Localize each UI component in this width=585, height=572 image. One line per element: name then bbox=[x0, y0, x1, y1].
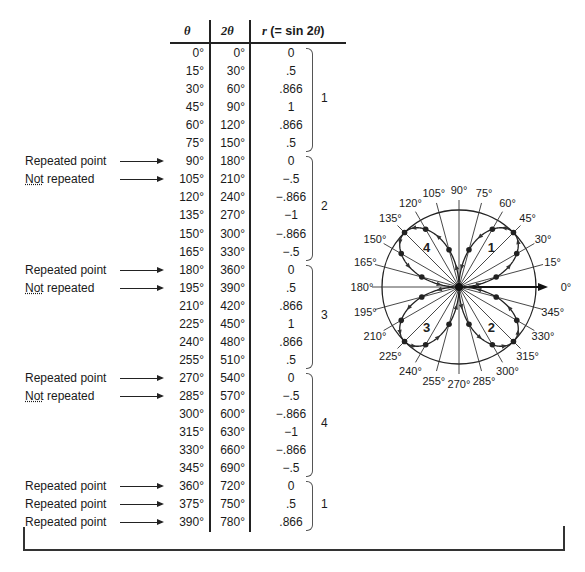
data-point bbox=[511, 230, 517, 236]
angle-label: 270° bbox=[448, 378, 471, 390]
ray-line bbox=[459, 287, 521, 349]
angle-label: 240° bbox=[399, 365, 422, 377]
data-point bbox=[402, 230, 408, 236]
angle-label: 120° bbox=[399, 197, 422, 209]
angle-label: 75° bbox=[476, 187, 493, 199]
petal-label: 2 bbox=[488, 320, 495, 335]
data-point bbox=[446, 321, 452, 327]
data-point bbox=[402, 339, 408, 345]
data-point bbox=[446, 247, 452, 253]
data-point bbox=[466, 247, 472, 253]
data-point bbox=[514, 251, 520, 257]
ray-line bbox=[375, 264, 459, 287]
angle-label: 90° bbox=[451, 184, 468, 196]
data-point bbox=[398, 251, 404, 257]
angle-label: 225° bbox=[379, 350, 402, 362]
ray-line bbox=[436, 203, 459, 287]
angle-label: 60° bbox=[499, 197, 516, 209]
angle-label: 135° bbox=[379, 212, 402, 224]
angle-label: 195° bbox=[354, 306, 377, 318]
angle-label: 330° bbox=[532, 330, 555, 342]
angle-label: 45° bbox=[519, 212, 536, 224]
data-point bbox=[493, 274, 499, 280]
ray-line bbox=[459, 203, 482, 287]
angle-label: 30° bbox=[535, 233, 552, 245]
data-point bbox=[511, 339, 517, 345]
angle-label: 165° bbox=[354, 256, 377, 268]
data-point bbox=[423, 342, 429, 348]
data-point bbox=[493, 294, 499, 300]
angle-label: 285° bbox=[473, 375, 496, 387]
data-point bbox=[419, 294, 425, 300]
angle-label: 105° bbox=[423, 187, 446, 199]
arrow-right-icon bbox=[538, 283, 548, 291]
ray-line bbox=[459, 287, 543, 310]
petal-label: 3 bbox=[423, 320, 430, 335]
ray-line bbox=[375, 287, 459, 310]
data-point bbox=[419, 274, 425, 280]
frame-bottom bbox=[23, 549, 565, 551]
angle-label: 210° bbox=[364, 330, 387, 342]
ray-line bbox=[397, 225, 459, 287]
petal-label: 1 bbox=[488, 240, 495, 255]
petal-label: 4 bbox=[423, 240, 431, 255]
angle-label: 345° bbox=[541, 306, 564, 318]
angle-label: 180° bbox=[351, 281, 374, 293]
data-point bbox=[490, 342, 496, 348]
ray-line bbox=[459, 225, 521, 287]
data-point bbox=[398, 318, 404, 324]
data-point bbox=[423, 226, 429, 232]
angle-label: 15° bbox=[544, 256, 561, 268]
polar-rose-plot: 0°15°30°45°60°75°90°105°120°135°150°165°… bbox=[0, 0, 585, 572]
data-point bbox=[514, 318, 520, 324]
angle-label: 0° bbox=[561, 281, 572, 293]
frame-right bbox=[563, 526, 565, 551]
frame-left bbox=[23, 527, 25, 550]
angle-label: 150° bbox=[364, 233, 387, 245]
ray-line bbox=[436, 287, 459, 371]
angle-label: 255° bbox=[423, 375, 446, 387]
angle-label: 300° bbox=[496, 365, 519, 377]
ray-line bbox=[459, 287, 482, 371]
ray-line bbox=[397, 287, 459, 349]
data-point bbox=[490, 226, 496, 232]
angle-label: 315° bbox=[516, 350, 539, 362]
origin-point bbox=[455, 283, 463, 291]
ray-line bbox=[459, 264, 543, 287]
data-point bbox=[466, 321, 472, 327]
